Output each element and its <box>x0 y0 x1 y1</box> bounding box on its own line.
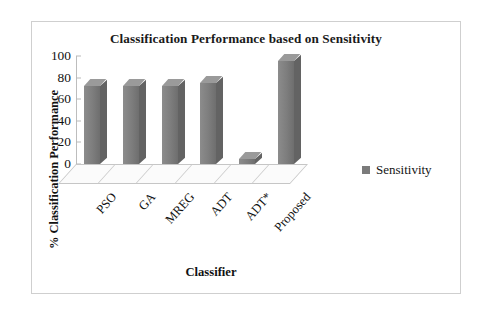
y-axis-tick-label: 80 <box>58 70 71 86</box>
bar-side-face <box>294 55 301 164</box>
bar <box>162 86 178 164</box>
bar <box>278 61 294 164</box>
bar <box>84 86 100 164</box>
y-axis-tick-mark <box>76 99 81 100</box>
square-swatch-icon <box>362 166 370 174</box>
x-axis-category-label: MREG <box>162 190 197 227</box>
chart-frame: Classification Performance based on Sens… <box>31 21 461 294</box>
chart-legend: Sensitivity <box>362 162 432 178</box>
y-axis-tick-label: 40 <box>58 113 71 129</box>
x-axis-category-label: Proposed <box>271 190 314 235</box>
y-axis-tick-mark <box>76 142 81 143</box>
bar-side-face <box>178 80 185 164</box>
y-axis-tick-mark <box>76 56 81 57</box>
x-axis-category-label: ADT* <box>242 190 275 224</box>
y-axis-tick-mark <box>76 120 81 121</box>
y-axis-line <box>76 56 77 164</box>
bar <box>239 159 255 164</box>
y-axis-tick-mark <box>76 77 81 78</box>
x-axis-category-label: ADT <box>208 190 236 219</box>
bar-side-face <box>100 80 107 164</box>
x-axis-category-label: GA <box>136 190 159 214</box>
y-axis-tick-label: 20 <box>58 134 71 150</box>
bar <box>200 83 216 164</box>
y-axis-tick-label: 60 <box>58 91 71 107</box>
bar <box>123 86 139 164</box>
legend-label: Sensitivity <box>376 162 432 178</box>
bar-side-face <box>216 77 223 164</box>
y-axis-tick-label: 100 <box>51 48 71 64</box>
chart-title: Classification Performance based on Sens… <box>32 31 460 47</box>
bar-side-face <box>139 80 146 164</box>
plot-area: 020406080100 PSOGAMREGADTADT*Proposed <box>76 56 346 236</box>
x-axis-title: Classifier <box>76 265 346 280</box>
x-axis-category-label: PSO <box>94 190 121 217</box>
